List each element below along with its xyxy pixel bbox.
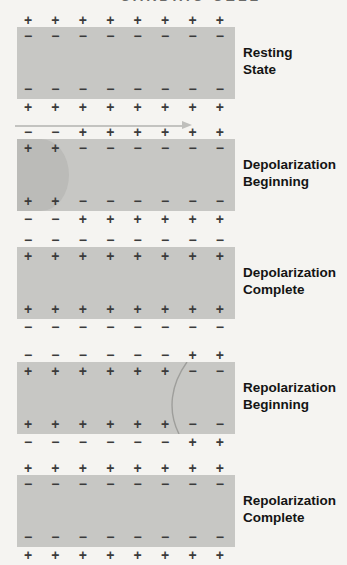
plus-sign: +	[157, 418, 173, 430]
plus-sign: +	[212, 126, 228, 138]
minus-sign: −	[20, 234, 36, 246]
plus-sign: +	[75, 303, 91, 315]
minus-sign: −	[75, 234, 91, 246]
outside-top-charge-row: −−−−−−−−	[20, 234, 228, 246]
minus-sign: −	[20, 83, 36, 95]
panel-label-line1: Repolarization	[243, 492, 345, 509]
inside-bottom-charge-row: ++++++−−	[20, 418, 228, 430]
plus-sign: +	[130, 418, 146, 430]
outside-bottom-charge-row: −−−−−−−−	[20, 321, 228, 333]
plus-sign: +	[47, 462, 63, 474]
minus-sign: −	[212, 83, 228, 95]
plus-sign: +	[75, 213, 91, 225]
plus-sign: +	[20, 418, 36, 430]
plus-sign: +	[20, 549, 36, 561]
minus-sign: −	[130, 349, 146, 361]
plus-sign: +	[20, 101, 36, 113]
minus-sign: −	[185, 321, 201, 333]
minus-sign: −	[212, 321, 228, 333]
plus-sign: +	[20, 303, 36, 315]
inside-top-charge-row: −−−−−−−−	[20, 30, 228, 42]
plus-sign: +	[130, 126, 146, 138]
minus-sign: −	[157, 234, 173, 246]
plus-sign: +	[130, 101, 146, 113]
plus-sign: +	[102, 549, 118, 561]
panel-label-line1: Repolarization	[243, 379, 345, 396]
minus-sign: −	[212, 142, 228, 154]
minus-sign: −	[157, 30, 173, 42]
plus-sign: +	[157, 213, 173, 225]
minus-sign: −	[102, 349, 118, 361]
minus-sign: −	[20, 436, 36, 448]
plus-sign: +	[75, 101, 91, 113]
plus-sign: +	[75, 126, 91, 138]
panel-label: Repolarization Beginning	[243, 379, 345, 413]
plus-sign: +	[157, 303, 173, 315]
panel-label-line2: Beginning	[243, 396, 345, 413]
panel-label-line1: Depolarization	[243, 264, 345, 281]
inside-top-charge-row: ++++++−−	[20, 365, 228, 377]
inside-top-charge-row: ++−−−−−−	[20, 142, 228, 154]
panel-label-line2: Complete	[243, 509, 345, 526]
plus-sign: +	[102, 365, 118, 377]
minus-sign: −	[157, 195, 173, 207]
plus-sign: +	[75, 365, 91, 377]
minus-sign: −	[157, 83, 173, 95]
outside-top-charge-row: −−++++++	[20, 126, 228, 138]
plus-sign: +	[212, 303, 228, 315]
minus-sign: −	[75, 436, 91, 448]
minus-sign: −	[157, 142, 173, 154]
panel-label: Repolarization Complete	[243, 492, 345, 526]
plus-sign: +	[47, 250, 63, 262]
outside-bottom-charge-row: ++++++++	[20, 101, 228, 113]
plus-sign: +	[102, 213, 118, 225]
plus-sign: +	[157, 126, 173, 138]
minus-sign: −	[102, 478, 118, 490]
minus-sign: −	[20, 30, 36, 42]
plus-sign: +	[212, 462, 228, 474]
inside-bottom-charge-row: −−−−−−−−	[20, 83, 228, 95]
plus-sign: +	[47, 195, 63, 207]
minus-sign: −	[157, 349, 173, 361]
plus-sign: +	[20, 142, 36, 154]
outside-top-charge-row: ++++++++	[20, 462, 228, 474]
minus-sign: −	[75, 531, 91, 543]
panel-label: Depolarization Beginning	[243, 156, 345, 190]
plus-sign: +	[20, 14, 36, 26]
plus-sign: +	[157, 250, 173, 262]
inside-bottom-charge-row: ++++++++	[20, 303, 228, 315]
panel-label-line2: Complete	[243, 281, 345, 298]
plus-sign: +	[130, 462, 146, 474]
minus-sign: −	[157, 321, 173, 333]
outside-bottom-charge-row: ++++++++	[20, 549, 228, 561]
panel-label: Depolarization Complete	[243, 264, 345, 298]
minus-sign: −	[185, 234, 201, 246]
minus-sign: −	[212, 234, 228, 246]
plus-sign: +	[185, 14, 201, 26]
panel-label-line2: Beginning	[243, 173, 345, 190]
plus-sign: +	[75, 462, 91, 474]
plus-sign: +	[212, 349, 228, 361]
plus-sign: +	[102, 101, 118, 113]
plus-sign: +	[130, 250, 146, 262]
minus-sign: −	[20, 321, 36, 333]
minus-sign: −	[47, 321, 63, 333]
minus-sign: −	[47, 213, 63, 225]
inside-bottom-charge-row: ++−−−−−−	[20, 195, 228, 207]
plus-sign: +	[75, 14, 91, 26]
plus-sign: +	[102, 126, 118, 138]
plus-sign: +	[130, 14, 146, 26]
minus-sign: −	[157, 478, 173, 490]
plus-sign: +	[212, 436, 228, 448]
panel-repolarization-complete: ++++++++ −−−−−−−− −−−−−−−− ++++++++ Repo…	[0, 462, 347, 562]
panel-label: Resting State	[243, 44, 345, 78]
outside-bottom-charge-row: −−−−−−++	[20, 436, 228, 448]
plus-sign: +	[102, 462, 118, 474]
minus-sign: −	[185, 83, 201, 95]
minus-sign: −	[75, 349, 91, 361]
plus-sign: +	[47, 101, 63, 113]
minus-sign: −	[212, 30, 228, 42]
minus-sign: −	[102, 142, 118, 154]
minus-sign: −	[47, 30, 63, 42]
minus-sign: −	[102, 195, 118, 207]
